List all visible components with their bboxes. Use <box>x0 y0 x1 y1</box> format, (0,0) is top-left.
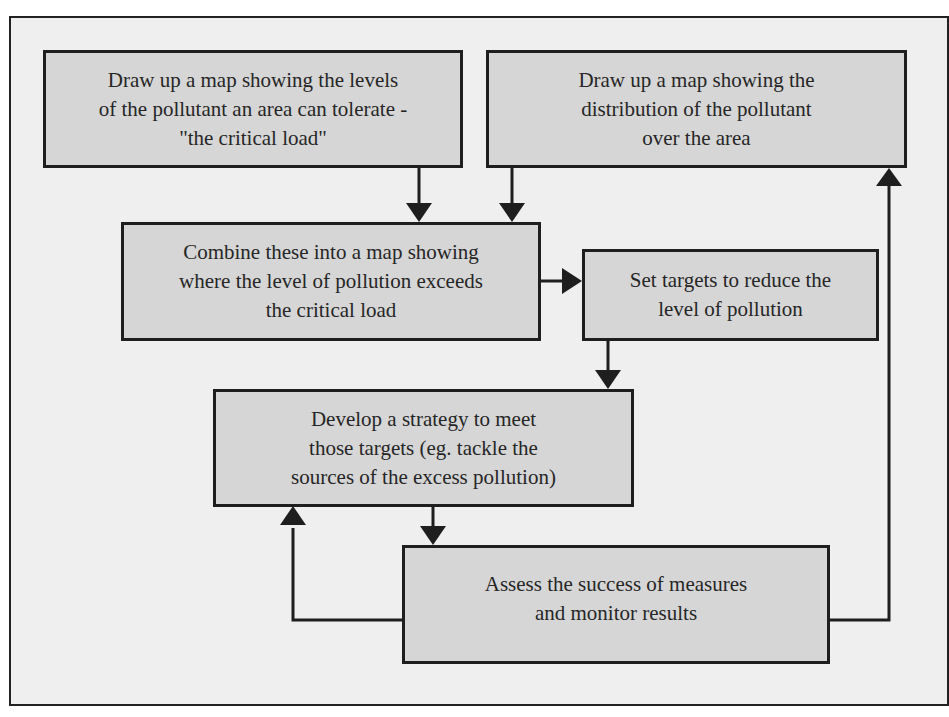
arrowhead-up-icon <box>280 506 306 525</box>
arrow-assess-to-strategy <box>293 528 402 620</box>
arrowhead-down-icon <box>499 203 525 222</box>
node-develop-strategy: Develop a strategy to meet those targets… <box>213 389 634 507</box>
node-text-line: level of pollution <box>630 295 831 324</box>
node-text-line: and monitor results <box>485 599 747 628</box>
node-text-line: of the pollutant an area can tolerate - <box>99 95 407 124</box>
node-text-line: Draw up a map showing the <box>578 66 814 95</box>
node-text-line: sources of the excess pollution) <box>291 463 556 492</box>
node-combine-maps: Combine these into a map showing where t… <box>121 222 541 341</box>
node-text-line: over the area <box>578 124 814 153</box>
arrowhead-down-icon <box>595 370 621 389</box>
node-text-line: Develop a strategy to meet <box>291 405 556 434</box>
arrowhead-right-icon <box>562 268 582 294</box>
node-assess-monitor: Assess the success of measures and monit… <box>402 545 830 664</box>
node-text-line: Set targets to reduce the <box>630 266 831 295</box>
node-text-line: "the critical load" <box>99 124 407 153</box>
node-distribution-map: Draw up a map showing the distribution o… <box>486 50 907 168</box>
node-critical-load-map: Draw up a map showing the levels of the … <box>43 50 463 168</box>
node-text-line: Combine these into a map showing <box>179 238 483 267</box>
node-text-line: distribution of the pollutant <box>578 95 814 124</box>
node-set-targets: Set targets to reduce the level of pollu… <box>582 249 879 341</box>
arrowhead-down-icon <box>406 203 432 222</box>
node-text-line: Assess the success of measures <box>485 570 747 599</box>
node-text-line: where the level of pollution exceeds <box>179 267 483 296</box>
arrowhead-down-icon <box>420 526 446 545</box>
arrowhead-up-icon <box>876 168 902 186</box>
node-text-line: Draw up a map showing the levels <box>99 66 407 95</box>
node-text-line: those targets (eg. tackle the <box>291 434 556 463</box>
node-text-line: the critical load <box>179 296 483 325</box>
